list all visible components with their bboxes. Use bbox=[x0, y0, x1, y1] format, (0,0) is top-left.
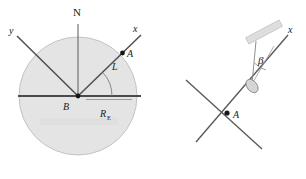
center-point-b-marker bbox=[76, 94, 81, 99]
figure-container: N x y A B L R E x A β bbox=[0, 0, 306, 179]
radius-subscript-label: E bbox=[107, 114, 111, 121]
point-a-label: A bbox=[126, 48, 134, 59]
left-panel-group bbox=[17, 24, 141, 155]
left-x-axis-label: x bbox=[132, 23, 138, 34]
angle-beta-label: β bbox=[257, 54, 264, 66]
center-b-label: B bbox=[63, 101, 69, 112]
point-a-marker bbox=[120, 51, 125, 56]
right-panel-group bbox=[186, 20, 288, 149]
angle-l-label: L bbox=[111, 61, 118, 72]
right-x-axis-line bbox=[196, 35, 288, 142]
right-x-axis-label: x bbox=[287, 24, 293, 35]
north-label: N bbox=[73, 6, 81, 18]
right-point-a-marker bbox=[224, 110, 229, 115]
right-point-a-label: A bbox=[232, 109, 240, 120]
vertex-body-ellipse bbox=[243, 77, 260, 95]
figure-canvas: N x y A B L R E x A β bbox=[0, 0, 306, 179]
target-bar bbox=[246, 20, 283, 44]
radius-symbol-label: R bbox=[99, 108, 106, 119]
left-y-axis-label: y bbox=[8, 25, 14, 36]
